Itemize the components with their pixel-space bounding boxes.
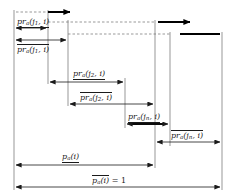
pr-lower-j2-fn: pr (73, 69, 82, 78)
label-pr-upper-j1: pra(j1, i) (17, 44, 49, 54)
pr-lower-j1-fn: pr (17, 17, 26, 26)
label-pr-lower-j2: pra(j2, i) (73, 70, 105, 80)
pr-upper-j1-tail: , i) (38, 45, 49, 54)
interval-bounds-figure: pra(j1, i) pra(j1, i) pra(j2, i) pra(j2,… (0, 0, 237, 194)
p-upper-tail: (i) (100, 176, 109, 185)
label-pr-lower-jn: pra(jn, i) (128, 113, 160, 123)
pr-lower-jn-tail: , i) (149, 112, 160, 121)
pr-lower-jn-fn: pr (128, 112, 137, 121)
p-upper-equation: = 1 (109, 176, 126, 185)
pr-upper-jn-fn: pr (171, 131, 180, 140)
pr-lower-j1-tail: , i) (38, 17, 49, 26)
label-pr-lower-j1: pra(j1, i) (17, 18, 49, 28)
label-pr-upper-jn: pra(jn, i) (171, 130, 203, 140)
p-lower-tail: (i) (70, 152, 79, 161)
pr-lower-j2-tail: , i) (94, 69, 105, 78)
figure-canvas (0, 0, 237, 194)
pr-upper-jn-tail: , i) (192, 131, 203, 140)
bold-arrow-segments (48, 12, 220, 124)
pr-upper-j2-tail: , i) (101, 93, 112, 102)
vertical-guide-lines (14, 10, 222, 190)
label-p-upper: pa(i) = 1 (92, 175, 126, 185)
pr-upper-j2-fn: pr (80, 93, 89, 102)
label-pr-upper-j2: pra(j2, i) (80, 92, 112, 102)
pr-upper-j1-fn: pr (17, 45, 26, 54)
label-p-lower: pa(i) (62, 153, 79, 163)
